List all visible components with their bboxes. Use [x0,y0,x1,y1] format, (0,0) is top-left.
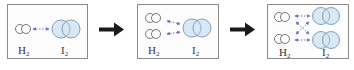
diagram-canvas [0,0,354,70]
i2-label: I2 [61,45,68,58]
h2-molecule [146,14,161,23]
h2-molecule [16,25,31,34]
interaction-arrow [167,32,180,34]
h2-molecule [146,30,161,39]
i2-molecule [313,32,340,49]
flow-arrow-right [230,23,255,37]
h2-label: H2 [148,45,159,58]
h2-molecule [275,13,290,22]
h2-label: H2 [279,47,290,60]
i2-label: I2 [322,47,329,60]
i2-molecule [313,8,340,25]
h2-label: H2 [18,45,29,58]
i2-molecule [52,20,80,38]
i2-label: I2 [192,45,199,58]
interaction-arrow [167,21,180,24]
flow-arrow-right [99,23,124,37]
i2-molecule [183,19,211,37]
h2-molecule [275,35,290,44]
